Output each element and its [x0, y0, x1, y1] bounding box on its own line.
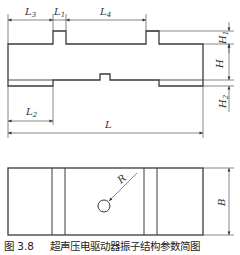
top-view: R B: [8, 168, 234, 235]
figure-number: 图 3.8: [4, 238, 34, 255]
figure-title: 超声压电驱动器振子结构参数简图: [50, 238, 200, 255]
dim-l1-label: L1: [53, 6, 65, 19]
dim-l4-label: L4: [99, 6, 111, 19]
side-view: L3 L1 L4 L2 L H1 H H2: [8, 6, 234, 138]
vibrator-plan-outline: [8, 168, 203, 235]
dim-h1-label: H1: [217, 31, 230, 45]
figure-caption: 图 3.8超声压电驱动器振子结构参数简图: [0, 238, 240, 255]
structure-diagram: L3 L1 L4 L2 L H1 H H2 R: [0, 0, 240, 255]
dim-l2-label: L2: [25, 106, 38, 119]
dim-l3-label: L3: [24, 6, 37, 19]
dim-h2-label: H2: [217, 94, 230, 109]
mounting-hole: [98, 200, 110, 212]
vibrator-side-outline: [8, 31, 203, 86]
dim-b-label: B: [216, 199, 227, 207]
dim-l-label: L: [104, 119, 112, 130]
dim-h-label: H: [214, 59, 225, 69]
